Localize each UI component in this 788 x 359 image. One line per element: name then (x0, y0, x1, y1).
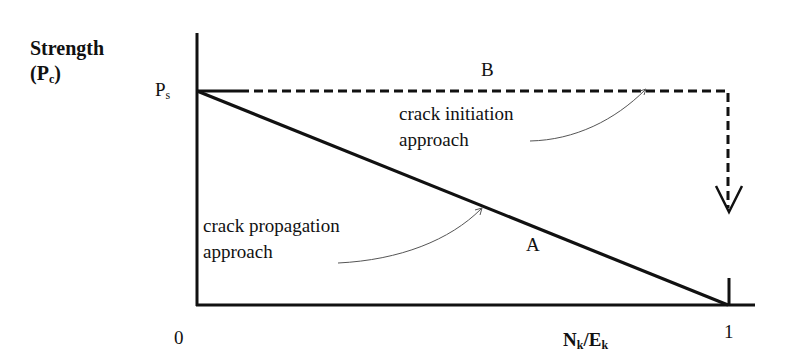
propagation-pointer-curve (338, 209, 481, 263)
propagation-annotation-line2: approach (203, 242, 273, 263)
diagram-canvas (0, 0, 788, 359)
propagation-annotation-line1: crack propagation (203, 216, 340, 237)
line-a-label: A (526, 235, 540, 256)
ps-label: Ps (155, 80, 170, 102)
x-axis-title: Nk/Ek (563, 330, 608, 352)
x-one-label: 1 (724, 322, 734, 343)
initiation-pointer-curve (530, 90, 645, 141)
initiation-annotation-line1: crack initiation (399, 104, 513, 125)
y-axis-title-line1: Strength (30, 37, 104, 59)
y-axis-title-line2: (Pc) (30, 62, 61, 86)
initiation-annotation-line2: approach (399, 130, 469, 151)
line-b-label: B (481, 60, 494, 81)
x-origin-label: 0 (174, 328, 184, 349)
